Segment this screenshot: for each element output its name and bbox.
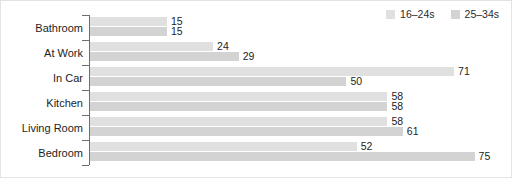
- bar[interactable]: [90, 152, 475, 161]
- bar[interactable]: [90, 52, 239, 61]
- bar-row: 52: [90, 142, 372, 151]
- bar-wrapper: 5858: [90, 90, 510, 115]
- bar-row: 71: [90, 67, 470, 76]
- bar-value-label: 50: [350, 76, 362, 87]
- axis-tick: [82, 165, 89, 166]
- bar-wrapper: 5861: [90, 115, 510, 140]
- bar-group: Kitchen5858: [1, 90, 512, 115]
- bar-row: 15: [90, 17, 183, 26]
- bar-value-label: 75: [479, 151, 491, 162]
- bar-value-label: 24: [217, 41, 229, 52]
- bar[interactable]: [90, 17, 167, 26]
- legend-label: 25–34s: [465, 9, 499, 20]
- legend-entry[interactable]: 25–34s: [451, 9, 499, 20]
- bar-row: 58: [90, 117, 403, 126]
- bar-row: 24: [90, 42, 229, 51]
- bar-value-label: 58: [391, 116, 403, 127]
- bar-row: 75: [90, 152, 490, 161]
- bar-value-label: 29: [243, 51, 255, 62]
- bar-wrapper: 2429: [90, 40, 510, 65]
- bar[interactable]: [90, 142, 357, 151]
- bar-group: In Car7150: [1, 65, 512, 90]
- bar[interactable]: [90, 102, 387, 111]
- bar-row: 61: [90, 127, 419, 136]
- bar[interactable]: [90, 77, 346, 86]
- bar-value-label: 61: [407, 126, 419, 137]
- legend-swatch-icon: [386, 10, 395, 19]
- bar-group: Bedroom5275: [1, 140, 512, 165]
- category-label: Living Room: [0, 122, 83, 134]
- bar-value-label: 15: [171, 26, 183, 37]
- bar-value-label: 58: [391, 101, 403, 112]
- category-label: In Car: [0, 72, 83, 84]
- bar[interactable]: [90, 67, 454, 76]
- bar-row: 58: [90, 92, 403, 101]
- plot-area: Bathroom1515At Work2429In Car7150Kitchen…: [1, 1, 512, 178]
- bar-wrapper: 5275: [90, 140, 510, 165]
- bar[interactable]: [90, 42, 213, 51]
- bar-value-label: 71: [458, 66, 470, 77]
- legend-swatch-icon: [451, 10, 460, 19]
- bar-row: 50: [90, 77, 362, 86]
- category-label: At Work: [0, 47, 83, 59]
- legend-label: 16–24s: [400, 9, 434, 20]
- bar-group: Living Room5861: [1, 115, 512, 140]
- bar-row: 15: [90, 27, 183, 36]
- bar[interactable]: [90, 27, 167, 36]
- chart-legend: 16–24s25–34s: [386, 9, 499, 20]
- legend-entry[interactable]: 16–24s: [386, 9, 434, 20]
- bar[interactable]: [90, 117, 387, 126]
- bar-value-label: 52: [361, 141, 373, 152]
- bar[interactable]: [90, 127, 403, 136]
- bar-group: At Work2429: [1, 40, 512, 65]
- category-label: Bedroom: [0, 147, 83, 159]
- chart-container: Bathroom1515At Work2429In Car7150Kitchen…: [0, 0, 512, 178]
- bar-wrapper: 7150: [90, 65, 510, 90]
- category-label: Kitchen: [0, 97, 83, 109]
- bar[interactable]: [90, 92, 387, 101]
- bar-row: 58: [90, 102, 403, 111]
- bar-row: 29: [90, 52, 254, 61]
- category-label: Bathroom: [0, 22, 83, 34]
